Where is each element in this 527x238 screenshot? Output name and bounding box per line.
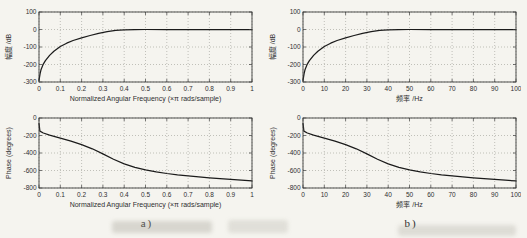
x-tick-label: 40 bbox=[385, 85, 393, 92]
x-tick-label: 40 bbox=[385, 191, 393, 198]
y-axis-label: Phase (degrees) bbox=[5, 127, 13, 179]
x-tick-label: 90 bbox=[491, 191, 499, 198]
x-axis-label: Normalized Angular Frequency (×π rads/sa… bbox=[70, 95, 222, 103]
y-tick-label: -400 bbox=[23, 149, 36, 156]
x-tick-label: 0.1 bbox=[56, 85, 65, 92]
x-tick-label: 0.2 bbox=[77, 191, 86, 198]
plot-box bbox=[303, 12, 516, 82]
y-tick-label: -800 bbox=[23, 184, 36, 191]
y-tick-label: -200 bbox=[287, 132, 300, 139]
magnitude-plot-normalized-freq: 00.10.20.30.40.50.60.70.80.91-300-200-10… bbox=[3, 4, 257, 110]
phase-plot-normalized-freq: 00.10.20.30.40.50.60.70.80.91-800-600-40… bbox=[3, 110, 257, 216]
y-tick-label: -300 bbox=[287, 78, 300, 85]
x-tick-label: 0 bbox=[37, 191, 41, 198]
x-tick-label: 0.6 bbox=[162, 191, 171, 198]
x-tick-label: 90 bbox=[491, 85, 499, 92]
x-tick-label: 0.9 bbox=[226, 191, 235, 198]
y-tick-label: -200 bbox=[23, 132, 36, 139]
x-tick-label: 0 bbox=[301, 85, 305, 92]
x-axis-label: Normalized Angular Frequency (×π rads/sa… bbox=[70, 201, 222, 209]
x-tick-label: 50 bbox=[406, 191, 414, 198]
x-tick-label: 0 bbox=[301, 191, 305, 198]
x-tick-label: 1 bbox=[250, 191, 254, 198]
y-tick-label: -100 bbox=[287, 43, 300, 50]
x-tick-label: 0.2 bbox=[77, 85, 86, 92]
plot-box bbox=[39, 118, 252, 188]
x-tick-label: 0.8 bbox=[205, 191, 214, 198]
phase-plot-hz: 0102030405060708090100-800-600-400-2000频… bbox=[267, 110, 521, 216]
y-tick-label: -100 bbox=[23, 43, 36, 50]
y-tick-label: -600 bbox=[23, 167, 36, 174]
y-tick-label: 100 bbox=[26, 8, 37, 15]
y-axis-label: 幅度 /dB bbox=[4, 33, 13, 60]
subfigure-b: 0102030405060708090100-300-200-1000100频率… bbox=[267, 4, 521, 229]
y-tick-label: -300 bbox=[23, 78, 36, 85]
x-tick-label: 0.3 bbox=[98, 85, 107, 92]
y-axis-label: 幅度 /dB bbox=[268, 33, 277, 60]
x-tick-label: 1 bbox=[250, 85, 254, 92]
x-tick-label: 0.7 bbox=[184, 85, 193, 92]
plot-box bbox=[303, 118, 516, 188]
figure: 00.10.20.30.40.50.60.70.80.91-300-200-10… bbox=[0, 0, 527, 229]
y-tick-label: 0 bbox=[33, 26, 37, 33]
x-tick-label: 50 bbox=[406, 85, 414, 92]
x-tick-label: 70 bbox=[448, 191, 456, 198]
x-tick-label: 20 bbox=[342, 191, 350, 198]
x-tick-label: 0.1 bbox=[56, 191, 65, 198]
subfigure-a: 00.10.20.30.40.50.60.70.80.91-300-200-10… bbox=[3, 4, 257, 229]
x-tick-label: 80 bbox=[470, 191, 478, 198]
y-tick-label: -200 bbox=[287, 61, 300, 68]
x-tick-label: 0 bbox=[37, 85, 41, 92]
x-tick-label: 0.4 bbox=[120, 191, 129, 198]
x-tick-label: 0.8 bbox=[205, 85, 214, 92]
x-tick-label: 30 bbox=[363, 85, 371, 92]
y-tick-label: -400 bbox=[287, 149, 300, 156]
x-tick-label: 0.9 bbox=[226, 85, 235, 92]
scan-smudge bbox=[228, 220, 288, 233]
x-tick-label: 0.5 bbox=[141, 85, 150, 92]
x-tick-label: 20 bbox=[342, 85, 350, 92]
x-tick-label: 60 bbox=[427, 85, 435, 92]
x-tick-label: 100 bbox=[511, 85, 521, 92]
x-tick-label: 80 bbox=[470, 85, 478, 92]
x-tick-label: 0.4 bbox=[120, 85, 129, 92]
y-axis-label: Phase (degrees) bbox=[269, 127, 277, 179]
scan-smudge bbox=[112, 221, 212, 233]
x-axis-label: 频率 /Hz bbox=[396, 200, 423, 209]
y-tick-label: 0 bbox=[297, 26, 301, 33]
plot-box bbox=[39, 12, 252, 82]
magnitude-plot-hz: 0102030405060708090100-300-200-1000100频率… bbox=[267, 4, 521, 110]
x-tick-label: 30 bbox=[363, 191, 371, 198]
y-tick-label: -600 bbox=[287, 167, 300, 174]
x-tick-label: 0.6 bbox=[162, 85, 171, 92]
x-axis-label: 频率 /Hz bbox=[396, 94, 423, 103]
x-tick-label: 0.3 bbox=[98, 191, 107, 198]
x-tick-label: 10 bbox=[321, 85, 329, 92]
x-tick-label: 0.7 bbox=[184, 191, 193, 198]
y-tick-label: 100 bbox=[290, 8, 301, 15]
x-tick-label: 60 bbox=[427, 191, 435, 198]
y-tick-label: 0 bbox=[297, 114, 301, 121]
x-tick-label: 10 bbox=[321, 191, 329, 198]
x-tick-label: 100 bbox=[511, 191, 521, 198]
scan-smudge bbox=[398, 225, 516, 236]
x-tick-label: 0.5 bbox=[141, 191, 150, 198]
y-tick-label: -800 bbox=[287, 184, 300, 191]
y-tick-label: -200 bbox=[23, 61, 36, 68]
x-tick-label: 70 bbox=[448, 85, 456, 92]
y-tick-label: 0 bbox=[33, 114, 37, 121]
